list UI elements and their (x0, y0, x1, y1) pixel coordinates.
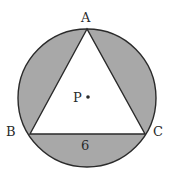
vertex-label-c: C (153, 124, 163, 139)
diagram-canvas: A B C P 6 (0, 0, 170, 173)
vertex-label-b: B (6, 124, 16, 139)
center-label-p: P (73, 90, 82, 105)
center-point-p (86, 95, 90, 99)
vertex-label-a: A (80, 10, 91, 25)
side-length-label: 6 (81, 138, 89, 153)
